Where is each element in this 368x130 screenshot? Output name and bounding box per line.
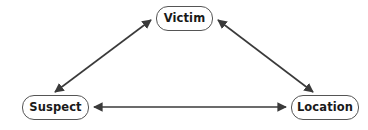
node-location: Location — [291, 95, 359, 120]
edge-suspect-victim — [55, 20, 151, 92]
edge-victim-location — [218, 20, 313, 92]
node-suspect-label: Suspect — [29, 101, 81, 113]
diagram-canvas: Victim Suspect Location — [0, 0, 368, 130]
node-location-label: Location — [297, 101, 353, 113]
node-victim-label: Victim — [164, 12, 205, 24]
node-victim: Victim — [156, 6, 213, 31]
node-suspect: Suspect — [22, 95, 89, 120]
